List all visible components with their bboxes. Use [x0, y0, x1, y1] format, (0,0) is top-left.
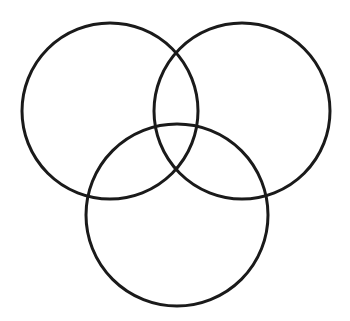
venn-diagram-figure [0, 0, 350, 321]
canvas-background [0, 0, 350, 321]
venn-diagram-canvas [0, 0, 350, 321]
